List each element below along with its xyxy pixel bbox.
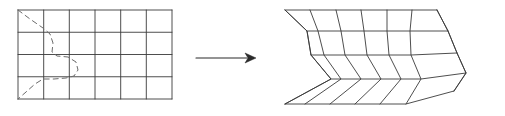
deformed-grid-vline-5: [406, 10, 421, 104]
deformed-grid-vline-3: [355, 10, 381, 104]
diagram-canvas: [0, 0, 505, 116]
deformed-grid-vline-4: [380, 10, 401, 104]
deformed-outline-left: [285, 10, 331, 104]
deformed-grid-vline-0: [285, 10, 331, 104]
source-grid-group: [18, 10, 172, 99]
deformed-grid-hline-4: [285, 91, 454, 104]
deformed-outline-right: [437, 10, 466, 91]
deformed-grid-group: [285, 10, 466, 104]
grid-deformation-figure: [0, 0, 505, 116]
deformed-grid-hline-2: [311, 53, 457, 55]
transformation-arrow-group: [196, 53, 256, 63]
deformed-grid-vline-2: [330, 10, 361, 104]
